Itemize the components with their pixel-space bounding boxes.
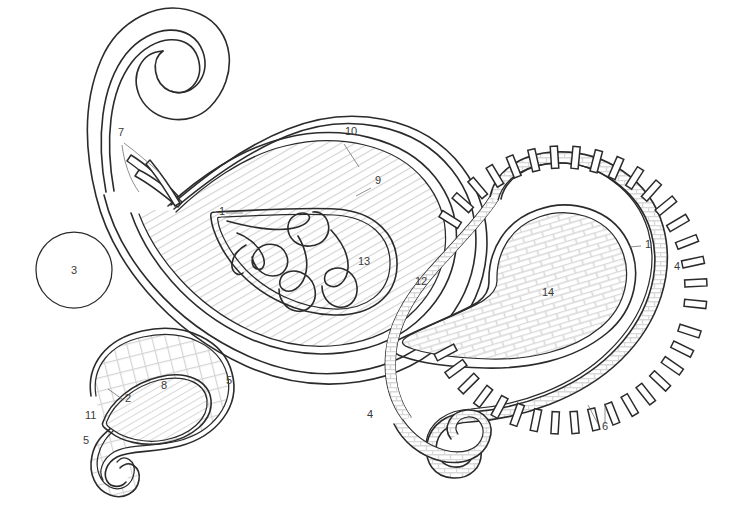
reference-label-12: 12 (415, 275, 427, 287)
reference-label-11: 11 (85, 409, 96, 421)
reference-label-4: 4 (674, 260, 680, 272)
tick-lower-7 (588, 408, 600, 431)
tick-lower-14 (458, 373, 479, 394)
reference-label-10: 10 (345, 125, 357, 137)
reference-label-13: 13 (358, 255, 370, 267)
tick-upper-16 (685, 279, 707, 287)
reference-label-2: 2 (125, 392, 131, 404)
reference-label-1: 1 (219, 205, 225, 217)
tick-upper-12 (655, 196, 677, 216)
tick-upper-17 (684, 299, 707, 308)
reference-label-9: 9 (375, 174, 381, 186)
tick-lower-3 (650, 371, 671, 391)
reference-label-6: 6 (602, 420, 608, 432)
tick-lower-5 (621, 394, 638, 417)
tick-upper-15 (682, 256, 705, 268)
figure-canvas: 7109113123141446582115 (0, 0, 743, 524)
reference-label-5: 5 (83, 434, 89, 446)
small-paisley-shape (90, 328, 234, 496)
stem-spikes-7 (127, 155, 182, 207)
tick-lower-8 (570, 411, 579, 434)
reference-label-7: 7 (118, 126, 124, 138)
tick-lower-9 (551, 412, 560, 434)
reference-label-4: 4 (367, 408, 373, 420)
tick-lower-1 (671, 341, 694, 357)
tick-lower-0 (678, 324, 701, 338)
tick-lower-13 (474, 385, 493, 407)
tick-lower-10 (530, 409, 542, 432)
tick-lower-4 (636, 383, 655, 405)
reference-label-3: 3 (71, 264, 77, 276)
reference-label-14: 14 (542, 286, 554, 298)
tick-lower-2 (661, 357, 683, 375)
tick-upper-6 (550, 146, 559, 168)
reference-label-5: 5 (226, 374, 232, 386)
tick-upper-7 (571, 146, 580, 169)
reference-label-1: 1 (645, 238, 651, 250)
tick-upper-14 (676, 235, 699, 250)
tick-upper-13 (667, 214, 690, 231)
paisley-technical-drawing: 7109113123141446582115 (0, 0, 743, 524)
tick-lower-15 (445, 360, 467, 379)
reference-label-8: 8 (161, 379, 167, 391)
